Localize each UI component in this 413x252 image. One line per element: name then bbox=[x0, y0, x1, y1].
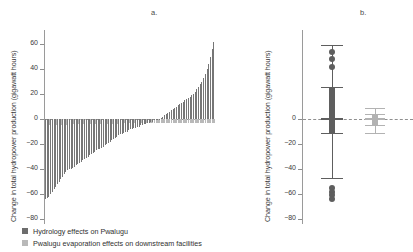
panel-b-label: b. bbox=[360, 8, 366, 17]
panel-b-ticklabel-minus20: −20 bbox=[272, 139, 296, 146]
panel-a-ticklabel-60: 60 bbox=[16, 39, 38, 46]
panel-a-bar-series bbox=[45, 28, 215, 224]
panel-a-tick-minus20 bbox=[40, 144, 44, 145]
box-q3-line-evaporation bbox=[365, 114, 385, 115]
panel-a-ticklabel-minus20: −20 bbox=[12, 139, 38, 146]
panel-a-tick-60 bbox=[40, 44, 44, 45]
box-median-line-evaporation bbox=[365, 118, 385, 119]
panel-a-tick-minus80 bbox=[40, 219, 44, 220]
panel-a-y-axis-title: Change in total hydropower production (g… bbox=[9, 50, 18, 222]
figure-root: Change in total hydropower production (g… bbox=[0, 0, 413, 252]
panel-a-ticklabel-20: 20 bbox=[16, 89, 38, 96]
panel-a-tick-minus40 bbox=[40, 169, 44, 170]
panel-a-label: a. bbox=[151, 8, 157, 17]
panel-a-tick-20 bbox=[40, 94, 44, 95]
panel-a-tick-40 bbox=[40, 69, 44, 70]
panel-b-tick-minus80 bbox=[298, 219, 302, 220]
panel-b-ticklabel-minus40: −40 bbox=[272, 164, 296, 171]
panel-b-tick-0 bbox=[298, 119, 302, 120]
panel-b-ticklabel-0: 0 bbox=[276, 114, 296, 121]
panel-b-ticklabel-minus80: −80 bbox=[272, 214, 296, 221]
panel-b-y-axis-title: Change in total hydropower production (g… bbox=[263, 50, 272, 222]
bar-hydrology bbox=[213, 42, 214, 120]
legend-label-hydrology: Hydrology effects on Pwalugu bbox=[33, 227, 128, 236]
panel-a-tick-minus60 bbox=[40, 194, 44, 195]
legend-item-evaporation: Pwalugu evaporation effects on downstrea… bbox=[22, 237, 202, 249]
legend-swatch-icon-light bbox=[22, 240, 28, 246]
panel-b-tick-minus40 bbox=[298, 169, 302, 170]
legend: Hydrology effects on Pwalugu Pwalugu eva… bbox=[22, 225, 202, 249]
panel-b-box-series bbox=[303, 28, 411, 224]
legend-swatch-icon-dark bbox=[22, 228, 28, 234]
whisker-cap-low-evaporation bbox=[365, 133, 385, 134]
panel-a-ticklabel-minus40: −40 bbox=[12, 164, 38, 171]
bar-evaporation bbox=[213, 119, 214, 123]
boxplot-evaporation bbox=[303, 28, 411, 224]
panel-a-ticklabel-40: 40 bbox=[16, 64, 38, 71]
legend-item-hydrology: Hydrology effects on Pwalugu bbox=[22, 225, 202, 237]
panel-a-ticklabel-0: 0 bbox=[16, 114, 38, 121]
panel-b-tick-minus60 bbox=[298, 194, 302, 195]
whisker-cap-high-evaporation bbox=[365, 108, 385, 109]
panel-a-tick-0 bbox=[40, 119, 44, 120]
panel-a-ticklabel-minus60: −60 bbox=[12, 189, 38, 196]
panel-b-ticklabel-minus60: −60 bbox=[272, 189, 296, 196]
panel-a-ticklabel-minus80: −80 bbox=[12, 214, 38, 221]
panel-b-tick-minus20 bbox=[298, 144, 302, 145]
legend-label-evaporation: Pwalugu evaporation effects on downstrea… bbox=[33, 239, 202, 248]
box-q1-line-evaporation bbox=[365, 125, 385, 126]
